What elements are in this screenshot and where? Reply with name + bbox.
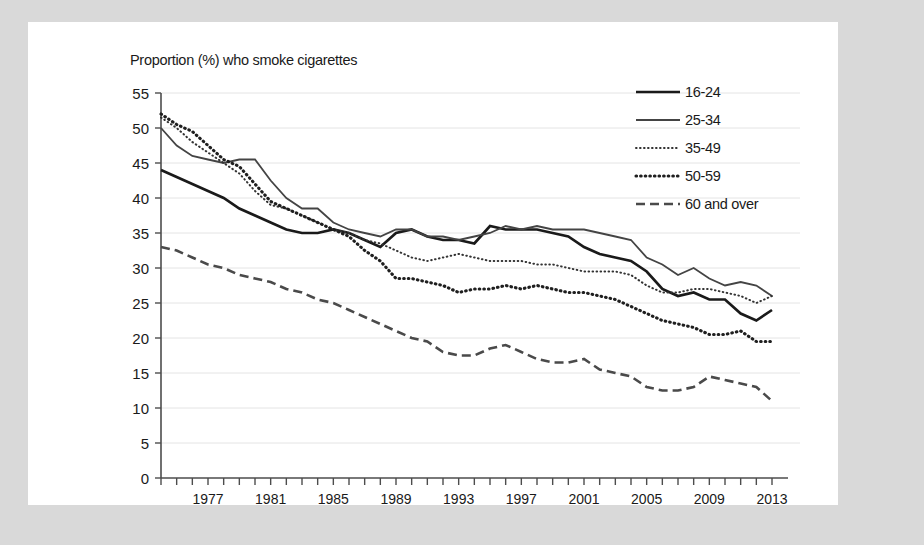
y-tick-label: 20 — [132, 330, 149, 347]
legend-label-50-59: 50-59 — [685, 168, 721, 184]
y-tick-label: 25 — [132, 295, 149, 312]
x-tick-label: 1993 — [443, 491, 474, 505]
line-chart: 0510152025303540455055197719811985198919… — [28, 22, 838, 505]
y-axis-ticks: 0510152025303540455055 — [132, 85, 161, 487]
y-tick-label: 40 — [132, 190, 149, 207]
series-line-16-24 — [161, 170, 772, 321]
y-tick-label: 5 — [141, 435, 149, 452]
x-tick-label: 1981 — [255, 491, 286, 505]
y-tick-label: 15 — [132, 365, 149, 382]
x-tick-label: 2005 — [631, 491, 662, 505]
x-tick-label: 2001 — [568, 491, 599, 505]
y-tick-label: 55 — [132, 85, 149, 102]
series-line-50-59 — [161, 114, 772, 342]
y-tick-label: 10 — [132, 400, 149, 417]
y-tick-label: 30 — [132, 260, 149, 277]
x-tick-label: 1985 — [318, 491, 349, 505]
x-tick-label: 1989 — [380, 491, 411, 505]
legend-label-60-and-over: 60 and over — [685, 196, 759, 212]
y-tick-label: 50 — [132, 120, 149, 137]
chart-card: Proportion (%) who smoke cigarettes 0510… — [28, 22, 838, 505]
x-axis-ticks: 1977198119851989199319972001200520092013 — [161, 478, 788, 505]
x-tick-label: 2013 — [756, 491, 787, 505]
x-tick-label: 1997 — [506, 491, 537, 505]
x-tick-label: 1977 — [192, 491, 223, 505]
legend-label-25-34: 25-34 — [685, 112, 721, 128]
chart-svg: 0510152025303540455055197719811985198919… — [28, 22, 838, 505]
legend-label-16-24: 16-24 — [685, 84, 721, 100]
legend-label-35-49: 35-49 — [685, 140, 721, 156]
series-line-25-34 — [161, 128, 772, 296]
y-tick-label: 35 — [132, 225, 149, 242]
screenshot-frame: Proportion (%) who smoke cigarettes 0510… — [0, 0, 924, 545]
y-tick-label: 45 — [132, 155, 149, 172]
series-group — [161, 114, 772, 401]
legend: 16-2425-3435-4950-5960 and over — [636, 84, 759, 212]
y-tick-label: 0 — [141, 470, 149, 487]
x-tick-label: 2009 — [694, 491, 725, 505]
series-line-35-49 — [161, 118, 772, 304]
